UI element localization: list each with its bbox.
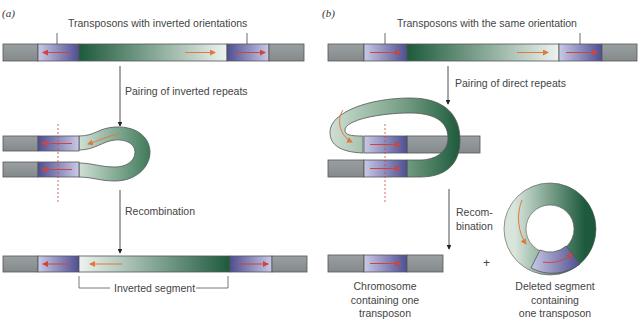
panel-b-label: (b)	[322, 7, 335, 19]
panel-b-step-recombination: Recom- bination	[456, 205, 493, 233]
deleted-segment-label: Deleted segment containing one transposo…	[505, 280, 605, 321]
inverted-segment-label: Inverted segment	[114, 282, 195, 294]
diagram-canvas	[0, 0, 639, 326]
plus-sign: +	[483, 256, 490, 270]
panel-a-label: (a)	[2, 7, 15, 19]
panel-a-hairpin	[3, 127, 150, 181]
panel-b-loop	[328, 98, 480, 177]
panel-b-deleted-ring	[504, 183, 596, 275]
panel-b-title: Transposons with the same orientation	[397, 17, 577, 29]
panel-a-title: Transposons with inverted orientations	[68, 17, 247, 29]
panel-a-step-recombination: Recombination	[125, 205, 195, 217]
panel-b-step-pairing: Pairing of direct repeats	[455, 77, 566, 89]
panel-a-step-pairing: Pairing of inverted repeats	[125, 85, 248, 97]
chromosome-one-transposon-label: Chromosome containing one transposon	[335, 280, 435, 321]
